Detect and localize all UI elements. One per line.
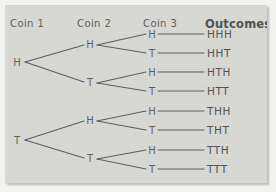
column-header-coin-3: Coin 3	[143, 18, 177, 29]
tree-branch-coin1-H-to-coin2-H	[25, 45, 84, 62]
tree-branch-coin2-T2-to-coin3-T4	[97, 159, 146, 169]
node-coin3-1-h: H	[148, 29, 156, 40]
tree-branch-coin1-T-to-coin2-H	[25, 121, 84, 140]
node-coin3-2-t: T	[149, 48, 155, 59]
node-coin1-2-t: T	[14, 135, 20, 146]
tree-branch-coin1-H-to-coin2-T	[25, 62, 84, 82]
outcome-tht: THT	[207, 124, 230, 136]
node-coin2-2-t: T	[87, 77, 93, 88]
outcome-tth: TTH	[207, 144, 229, 156]
tree-branch-coin2-T1-to-coin3-H2	[97, 72, 146, 83]
node-coin2-3-h: H	[86, 115, 94, 126]
probability-tree-figure: Coin 1Coin 2Coin 3Outcomes HTHTHTHTHTHTH…	[5, 5, 267, 183]
node-coin3-3-h: H	[148, 67, 156, 78]
outcome-hht: HHT	[207, 47, 231, 59]
tree-branch-coin2-H1-to-coin3-H1	[97, 34, 146, 45]
outcome-htt: HTT	[207, 85, 229, 97]
node-coin3-7-h: H	[148, 145, 156, 156]
node-coin2-4-t: T	[87, 153, 93, 164]
node-coin2-1-h: H	[86, 39, 94, 50]
outcome-thh: THH	[207, 105, 231, 117]
node-coin3-6-t: T	[149, 125, 155, 136]
tree-branch-coin2-H2-to-coin3-T3	[97, 121, 146, 130]
outcome-hth: HTH	[207, 66, 231, 78]
tree-branch-coin2-T1-to-coin3-T2	[97, 83, 146, 91]
tree-branch-coin1-T-to-coin2-T	[25, 140, 84, 158]
tree-branch-coin2-H1-to-coin3-T1	[97, 45, 146, 53]
node-coin1-1-h: H	[13, 57, 21, 68]
tree-branch-coin2-T2-to-coin3-H4	[97, 150, 146, 159]
node-coin3-8-t: T	[149, 164, 155, 175]
tree-branch-coin2-H2-to-coin3-H3	[97, 111, 146, 121]
outcome-hhh: HHH	[207, 28, 233, 40]
node-coin3-4-t: T	[149, 86, 155, 97]
outcome-ttt: TTT	[207, 163, 228, 175]
node-coin3-5-h: H	[148, 106, 156, 117]
column-header-coin-2: Coin 2	[77, 18, 111, 29]
column-header-coin-1: Coin 1	[10, 18, 44, 29]
